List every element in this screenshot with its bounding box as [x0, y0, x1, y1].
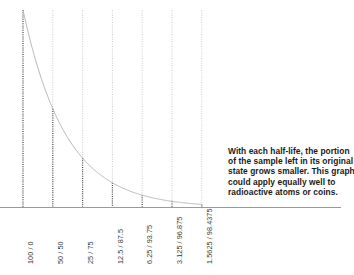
- annotation-line: radioactive atoms or coins.: [228, 187, 350, 197]
- half-life-graph-figure: 100 / 050 / 5025 / 7512.5 / 87.56.25 / 9…: [0, 0, 354, 275]
- grid-line-group: [23, 10, 202, 208]
- annotation-line: could apply equally well to: [228, 177, 350, 187]
- annotation-line: of the sample left in its original: [228, 156, 350, 166]
- annotation-line: With each half-life, the portion: [228, 146, 350, 156]
- decay-plot: [0, 0, 354, 275]
- annotation-text-block: With each half-life, the portion of the …: [228, 146, 350, 197]
- annotation-line: state grows smaller. This graph: [228, 166, 350, 176]
